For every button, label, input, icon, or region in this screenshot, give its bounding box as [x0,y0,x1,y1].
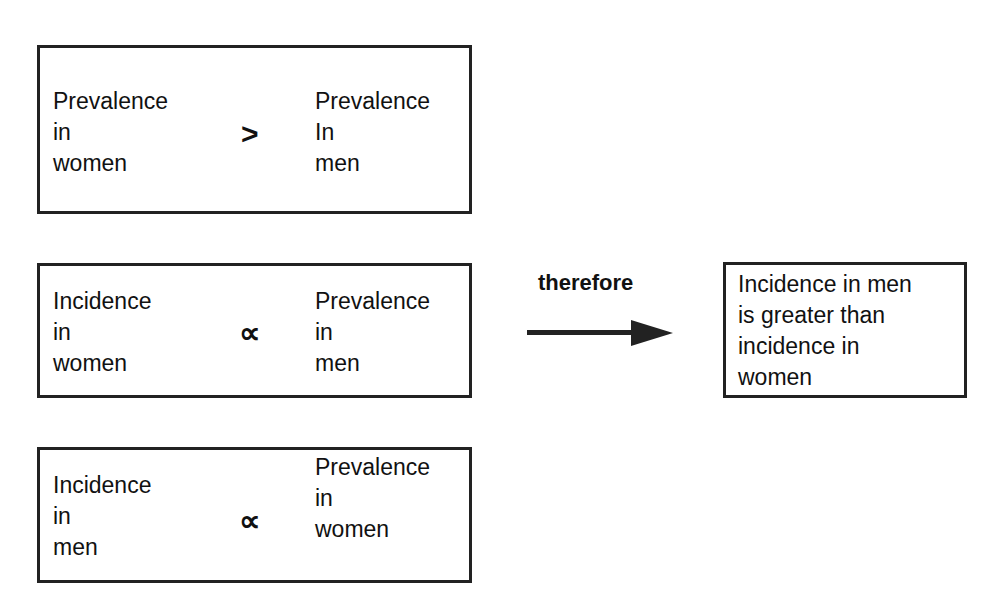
proportional-operator: ∝ [239,315,260,350]
text: Incidence in men [738,269,912,300]
text: In [315,117,430,148]
text: in [315,317,430,348]
premise-box-2: Incidence in women ∝ Prevalence in men [37,263,472,398]
greater-than-operator: > [241,117,259,151]
conclusion-box: Incidence in men is greater than inciden… [723,262,967,398]
text: Prevalence [315,452,430,483]
arrow-right-icon [527,318,677,348]
text: women [53,348,151,379]
text: women [738,362,912,393]
text: in [53,117,168,148]
premise-1-right: Prevalence In men [315,86,430,179]
conclusion-text: Incidence in men is greater than inciden… [738,269,912,393]
premise-3-left: Incidence in men [53,470,151,563]
premise-3-right: Prevalence in women [315,452,430,545]
text: men [315,348,430,379]
text: women [315,514,430,545]
text: in [53,501,151,532]
premise-box-1: Prevalence in women > Prevalence In men [37,45,472,214]
therefore-label: therefore [538,270,633,296]
text: is greater than [738,300,912,331]
text: in [315,483,430,514]
premise-2-left: Incidence in women [53,286,151,379]
proportional-operator: ∝ [239,503,260,538]
text: men [53,532,151,563]
premise-box-3: Incidence in men ∝ Prevalence in women [37,447,472,583]
text: men [315,148,430,179]
premise-1-left: Prevalence in women [53,86,168,179]
text: in [53,317,151,348]
text: Prevalence [315,86,430,117]
text: women [53,148,168,179]
text: Prevalence [53,86,168,117]
text: incidence in [738,331,912,362]
text: Prevalence [315,286,430,317]
premise-2-right: Prevalence in men [315,286,430,379]
text: Incidence [53,286,151,317]
text: Incidence [53,470,151,501]
